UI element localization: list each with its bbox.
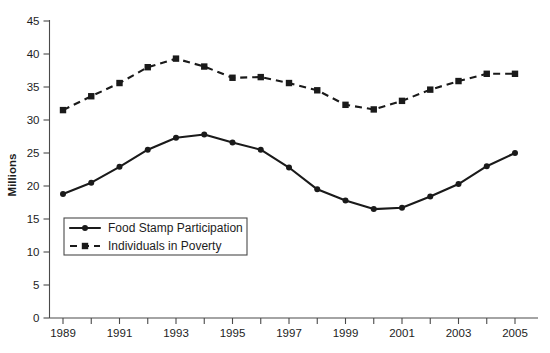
- legend-label: Food Stamp Participation: [108, 221, 243, 235]
- x-axis-ticks: 198919911993199519971999200120032005: [50, 318, 528, 339]
- data-point-marker: [455, 78, 461, 84]
- data-point-marker: [314, 87, 320, 93]
- series-2: [60, 55, 518, 113]
- x-tick-label: 1993: [163, 327, 189, 339]
- data-point-marker: [60, 107, 66, 113]
- data-point-marker: [88, 93, 94, 99]
- data-point-marker: [342, 102, 348, 108]
- y-tick-label: 35: [27, 81, 40, 93]
- x-tick-label: 2003: [446, 327, 472, 339]
- series-1: [60, 132, 518, 213]
- data-point-marker: [117, 164, 123, 170]
- axes: [50, 20, 539, 318]
- y-tick-label: 30: [27, 114, 40, 126]
- y-axis-title: Millions: [6, 154, 18, 197]
- y-tick-label: 20: [27, 180, 40, 192]
- y-tick-label: 15: [27, 213, 40, 225]
- chart-legend: Food Stamp ParticipationIndividuals in P…: [64, 218, 247, 255]
- x-tick-label: 1995: [220, 327, 246, 339]
- y-tick-label: 5: [33, 279, 39, 291]
- data-point-marker: [399, 205, 405, 211]
- data-point-marker: [229, 75, 235, 81]
- data-point-marker: [145, 64, 151, 70]
- x-tick-label: 2005: [502, 327, 528, 339]
- data-point-marker: [427, 86, 433, 92]
- data-point-marker: [258, 147, 264, 153]
- data-point-marker: [512, 150, 518, 156]
- y-tick-label: 0: [33, 312, 39, 324]
- data-point-marker: [484, 163, 490, 169]
- data-point-marker: [456, 181, 462, 187]
- data-point-marker: [173, 135, 179, 141]
- x-tick-label: 1999: [333, 327, 359, 339]
- data-point-marker: [258, 74, 264, 80]
- y-tick-label: 40: [27, 48, 40, 60]
- data-point-marker: [371, 106, 377, 112]
- figure-container: 051015202530354045Millions19891991199319…: [0, 0, 550, 353]
- data-point-marker: [427, 194, 433, 200]
- x-tick-label: 1989: [50, 327, 76, 339]
- y-tick-label: 25: [27, 147, 40, 159]
- data-point-marker: [60, 191, 66, 197]
- y-axis-ticks: 051015202530354045: [27, 15, 50, 324]
- x-tick-label: 1997: [276, 327, 302, 339]
- series-line-solid: [63, 135, 515, 210]
- legend-marker-circle: [82, 225, 88, 231]
- data-point-marker: [88, 180, 94, 186]
- data-point-marker: [145, 147, 151, 153]
- data-point-marker: [201, 132, 207, 138]
- legend-label: Individuals in Poverty: [108, 239, 221, 253]
- data-point-marker: [343, 198, 349, 204]
- y-tick-label: 45: [27, 15, 40, 27]
- y-tick-label: 10: [27, 246, 40, 258]
- x-tick-label: 1991: [107, 327, 133, 339]
- data-point-marker: [230, 139, 236, 145]
- data-point-marker: [173, 55, 179, 61]
- x-tick-label: 2001: [389, 327, 415, 339]
- data-point-marker: [286, 165, 292, 171]
- data-point-marker: [399, 98, 405, 104]
- data-point-marker: [116, 80, 122, 86]
- data-point-marker: [314, 186, 320, 192]
- data-point-marker: [371, 206, 377, 212]
- data-point-marker: [201, 63, 207, 69]
- data-point-marker: [484, 71, 490, 77]
- line-chart: 051015202530354045Millions19891991199319…: [0, 0, 550, 353]
- data-point-marker: [286, 80, 292, 86]
- data-point-marker: [512, 71, 518, 77]
- legend-marker-square: [82, 243, 88, 249]
